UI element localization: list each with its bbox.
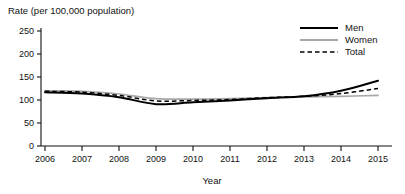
- y-axis-title: Rate (per 100,000 population): [8, 5, 134, 16]
- legend-label-men: Men: [345, 22, 363, 33]
- x-tick-label: 2015: [368, 154, 388, 164]
- line-chart: Rate (per 100,000 population) 0 50 100 1…: [0, 0, 405, 194]
- chart-figure: Rate (per 100,000 population) 0 50 100 1…: [0, 0, 405, 194]
- y-tick-label: 0: [29, 141, 34, 151]
- y-tick-label: 200: [19, 49, 34, 59]
- legend: Men Women Total: [300, 22, 378, 57]
- x-tick-label: 2008: [109, 154, 129, 164]
- y-axis-ticks: [37, 31, 41, 146]
- x-tick-label: 2007: [72, 154, 92, 164]
- x-axis-label: Year: [202, 175, 221, 186]
- y-tick-label: 50: [24, 118, 34, 128]
- x-tick-label: 2012: [257, 154, 277, 164]
- y-tick-label: 100: [19, 95, 34, 105]
- legend-label-women: Women: [345, 34, 378, 45]
- x-axis-ticks: [45, 146, 378, 151]
- y-tick-label: 150: [19, 72, 34, 82]
- x-axis-tick-labels: 2006 2007 2008 2009 2010 2011 2012 2013 …: [35, 154, 388, 164]
- x-tick-label: 2014: [331, 154, 351, 164]
- legend-label-total: Total: [345, 46, 365, 57]
- x-tick-label: 2011: [220, 154, 239, 164]
- y-axis-tick-labels: 0 50 100 150 200 250: [19, 26, 34, 151]
- y-tick-label: 250: [19, 26, 34, 36]
- x-tick-label: 2006: [35, 154, 55, 164]
- x-tick-label: 2013: [294, 154, 314, 164]
- x-tick-label: 2010: [183, 154, 203, 164]
- x-tick-label: 2009: [146, 154, 166, 164]
